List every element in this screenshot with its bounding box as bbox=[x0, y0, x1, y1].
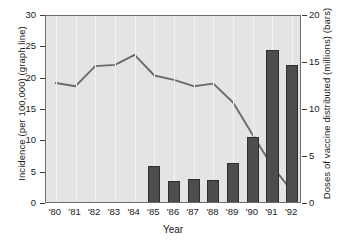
bar-y89 bbox=[227, 163, 239, 203]
x-axis-label: Year bbox=[45, 224, 301, 235]
vertical-gridline bbox=[95, 16, 96, 202]
left-axis-tick bbox=[40, 140, 45, 141]
right-axis-tick bbox=[302, 62, 307, 63]
chart-figure: Incidence (per 100,000) (graph line) Dos… bbox=[0, 0, 347, 242]
right-axis-tick bbox=[302, 156, 307, 157]
left-axis-tick bbox=[40, 172, 45, 173]
bar-y90 bbox=[247, 137, 259, 203]
vertical-gridline bbox=[56, 16, 57, 202]
right-axis-tick bbox=[302, 203, 307, 204]
right-axis-tick-label: 10 bbox=[309, 103, 339, 114]
vertical-gridline bbox=[135, 16, 136, 202]
left-axis-tick-label: 0 bbox=[4, 197, 36, 208]
left-axis-tick bbox=[40, 78, 45, 79]
bar-y92 bbox=[286, 65, 298, 203]
left-axis-tick-label: 20 bbox=[4, 72, 36, 83]
right-axis-tick-label: 5 bbox=[309, 150, 339, 161]
left-axis-tick-label: 15 bbox=[4, 103, 36, 114]
vertical-gridline bbox=[76, 16, 77, 202]
bar-y87 bbox=[188, 179, 200, 203]
bar-y88 bbox=[207, 180, 219, 203]
left-axis-tick-label: 30 bbox=[4, 9, 36, 20]
left-axis-tick bbox=[40, 15, 45, 16]
left-axis-tick bbox=[40, 46, 45, 47]
x-axis-tick-label: '92 bbox=[279, 206, 303, 217]
vertical-gridline bbox=[174, 16, 175, 202]
bar-y91 bbox=[266, 50, 278, 203]
vertical-gridline bbox=[194, 16, 195, 202]
right-axis-tick-label: 15 bbox=[309, 56, 339, 67]
vertical-gridline bbox=[213, 16, 214, 202]
left-axis-tick bbox=[40, 109, 45, 110]
left-axis-tick-label: 10 bbox=[4, 134, 36, 145]
right-axis-tick-label: 0 bbox=[309, 197, 339, 208]
left-axis-tick-label: 5 bbox=[4, 166, 36, 177]
plot-area bbox=[45, 15, 301, 203]
right-axis-tick bbox=[302, 15, 307, 16]
vertical-gridline bbox=[115, 16, 116, 202]
bar-y86 bbox=[168, 181, 180, 204]
right-axis-tick bbox=[302, 109, 307, 110]
left-axis-tick bbox=[40, 203, 45, 204]
right-axis-tick-label: 20 bbox=[309, 9, 339, 20]
left-axis-tick-label: 25 bbox=[4, 40, 36, 51]
bar-y85 bbox=[148, 166, 160, 203]
